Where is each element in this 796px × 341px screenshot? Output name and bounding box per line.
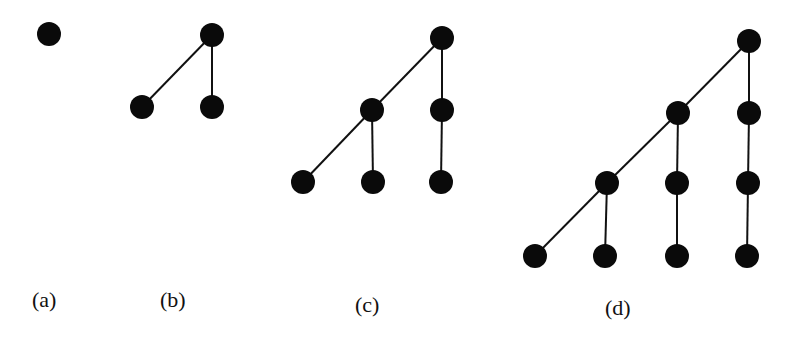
node-d-a2 bbox=[665, 171, 689, 195]
edge-c-a-a1 bbox=[303, 110, 372, 182]
label-a: (a) bbox=[32, 287, 56, 312]
edge-d-a-a1 bbox=[607, 113, 678, 183]
label-b: (b) bbox=[160, 287, 186, 312]
label-c: (c) bbox=[355, 292, 379, 317]
node-d-a1 bbox=[595, 171, 619, 195]
node-d-a12 bbox=[593, 244, 617, 268]
node-c-a bbox=[360, 98, 384, 122]
node-d-b11 bbox=[735, 244, 759, 268]
tree-diagram: (a) (b) (c) (d) bbox=[0, 0, 796, 341]
node-b-c2 bbox=[200, 95, 224, 119]
node-d-a11 bbox=[523, 244, 547, 268]
node-d-b1 bbox=[736, 171, 760, 195]
node-c-a1 bbox=[291, 170, 315, 194]
node-d-a bbox=[666, 101, 690, 125]
edge-c-r-a bbox=[372, 38, 442, 110]
node-c-b bbox=[430, 98, 454, 122]
node-d-a21 bbox=[665, 244, 689, 268]
node-c-b1 bbox=[429, 170, 453, 194]
node-b-r bbox=[200, 23, 224, 47]
edge-b-r-c1 bbox=[142, 35, 212, 107]
edge-d-r-a bbox=[678, 41, 749, 113]
node-d-b bbox=[737, 101, 761, 125]
node-d-r bbox=[737, 29, 761, 53]
node-a-r bbox=[37, 22, 61, 46]
node-b-c1 bbox=[130, 95, 154, 119]
label-d: (d) bbox=[605, 295, 631, 320]
edge-d-a1-a11 bbox=[535, 183, 607, 256]
node-c-a2 bbox=[361, 170, 385, 194]
node-c-r bbox=[430, 26, 454, 50]
